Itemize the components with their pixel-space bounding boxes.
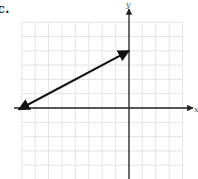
grid-lines [22, 22, 183, 179]
y-axis-label: y [125, 0, 131, 9]
coordinate-plane: x y [0, 0, 198, 179]
x-axis-label: x [194, 105, 198, 114]
